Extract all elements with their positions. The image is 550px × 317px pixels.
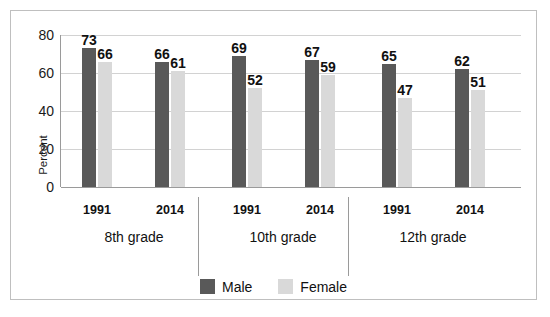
- bar-value: 59: [320, 60, 336, 74]
- bar-value: 61: [170, 56, 186, 70]
- bar-10th-2014-male[interactable]: 67: [305, 60, 319, 187]
- year-label-12th-1991: 1991: [383, 203, 411, 217]
- year-label-10th-2014: 2014: [306, 203, 334, 217]
- legend-item-female[interactable]: Female: [278, 279, 347, 294]
- y-tick-60: 60: [38, 66, 54, 80]
- bar-value: 66: [97, 47, 113, 61]
- bar-value: 62: [454, 54, 470, 68]
- group-label-8th-grade: 8th grade: [104, 229, 163, 245]
- bar-8th-2014-female[interactable]: 61: [171, 71, 185, 187]
- bar-value: 66: [154, 47, 170, 61]
- gridline-80: [61, 35, 521, 36]
- legend-swatch-male-icon: [200, 279, 215, 294]
- bar-value: 51: [470, 75, 486, 89]
- bar-10th-2014-female[interactable]: 59: [321, 75, 335, 187]
- bar-12th-1991-female[interactable]: 47: [398, 98, 412, 187]
- bar-value: 52: [247, 73, 263, 87]
- gridline-baseline-0: [61, 187, 521, 188]
- chart-figure: Percent 80 60 40 20 0 73 66 66 61 69: [10, 10, 537, 300]
- legend-swatch-female-icon: [278, 279, 293, 294]
- bar-value: 47: [397, 83, 413, 97]
- bar-12th-2014-female[interactable]: 51: [471, 90, 485, 187]
- year-label-10th-1991: 1991: [233, 203, 261, 217]
- group-separator-1: [198, 197, 199, 276]
- bar-value: 69: [231, 41, 247, 55]
- bar-8th-1991-male[interactable]: 73: [82, 48, 96, 187]
- legend-label-female: Female: [300, 280, 347, 294]
- y-tick-0: 0: [46, 180, 54, 194]
- plot-area: 80 60 40 20 0 73 66 66 61 69 52 67 59: [61, 35, 521, 187]
- bar-value: 65: [381, 49, 397, 63]
- y-tick-20: 20: [38, 142, 54, 156]
- bar-10th-1991-male[interactable]: 69: [232, 56, 246, 187]
- y-tick-80: 80: [38, 28, 54, 42]
- legend-item-male[interactable]: Male: [200, 279, 252, 294]
- bar-10th-1991-female[interactable]: 52: [248, 88, 262, 187]
- gridline-60: [61, 73, 521, 74]
- year-label-8th-1991: 1991: [83, 203, 111, 217]
- bar-value: 73: [81, 33, 97, 47]
- chart-legend: Male Female: [11, 279, 536, 294]
- y-tick-40: 40: [38, 104, 54, 118]
- bar-12th-2014-male[interactable]: 62: [455, 69, 469, 187]
- bar-12th-1991-male[interactable]: 65: [382, 64, 396, 188]
- year-label-12th-2014: 2014: [456, 203, 484, 217]
- legend-label-male: Male: [222, 280, 252, 294]
- bar-value: 67: [304, 45, 320, 59]
- bar-8th-2014-male[interactable]: 66: [155, 62, 169, 187]
- year-label-8th-2014: 2014: [156, 203, 184, 217]
- gridline-20: [61, 149, 521, 150]
- clipped-caption: [14, 303, 536, 317]
- group-separator-2: [348, 197, 349, 276]
- gridline-40: [61, 111, 521, 112]
- bar-8th-1991-female[interactable]: 66: [98, 62, 112, 187]
- group-label-10th-grade: 10th grade: [250, 229, 317, 245]
- group-label-12th-grade: 12th grade: [400, 229, 467, 245]
